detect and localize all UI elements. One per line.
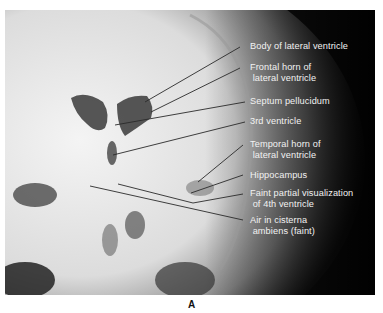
xray-image: Body of lateral ventricle Frontal horn o… — [5, 10, 375, 295]
label-3rd-ventricle: 3rd ventricle — [250, 116, 301, 127]
label-4th-ventricle: Faint partial visualization of 4th ventr… — [250, 188, 353, 210]
figure-caption: A — [0, 299, 383, 310]
label-hippocampus: Hippocampus — [250, 170, 307, 181]
label-septum-pellucidum: Septum pellucidum — [250, 96, 330, 107]
label-temporal-horn: Temporal horn of lateral ventricle — [250, 139, 321, 161]
label-frontal-horn: Frontal horn of lateral ventricle — [250, 62, 316, 84]
label-body-of-lateral-ventricle: Body of lateral ventricle — [250, 41, 348, 52]
label-cisterna-ambiens: Air in cisterna ambiens (faint) — [250, 215, 315, 237]
